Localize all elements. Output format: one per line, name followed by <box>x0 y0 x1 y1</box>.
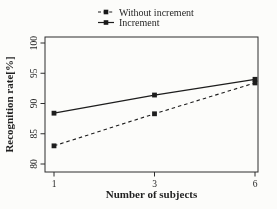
y-axis-title: Recognition rate[%] <box>3 56 15 152</box>
legend-square-marker <box>104 10 109 15</box>
line-chart-figure: Without increment Increment 80859095100 … <box>0 0 277 209</box>
data-point-marker <box>152 93 157 98</box>
legend-item-increment: Increment <box>98 17 160 28</box>
y-tick-label: 95 <box>29 68 39 78</box>
chart-canvas: Without increment Increment 80859095100 … <box>0 0 277 209</box>
y-tick-label: 90 <box>29 99 39 109</box>
x-axis-ticks: 136 <box>52 172 258 189</box>
x-tick-label: 6 <box>253 179 258 189</box>
data-series-layer <box>52 77 258 148</box>
data-point-marker <box>253 77 258 82</box>
data-point-marker <box>152 111 157 116</box>
x-tick-label: 1 <box>52 179 57 189</box>
legend-label-increment: Increment <box>119 17 160 28</box>
legend-square-marker <box>104 20 109 25</box>
x-tick-label: 3 <box>152 179 157 189</box>
x-axis-title: Number of subjects <box>106 188 198 200</box>
legend-item-without-increment: Without increment <box>98 7 194 18</box>
y-tick-label: 100 <box>29 36 39 51</box>
plot-box <box>45 37 258 172</box>
data-point-marker <box>52 111 57 116</box>
data-point-marker <box>52 143 57 148</box>
y-axis-ticks: 80859095100 <box>29 36 45 169</box>
y-tick-label: 80 <box>29 159 39 169</box>
y-tick-label: 85 <box>29 129 39 139</box>
chart-legend: Without increment Increment <box>98 7 194 29</box>
legend-label-without-increment: Without increment <box>119 7 194 18</box>
